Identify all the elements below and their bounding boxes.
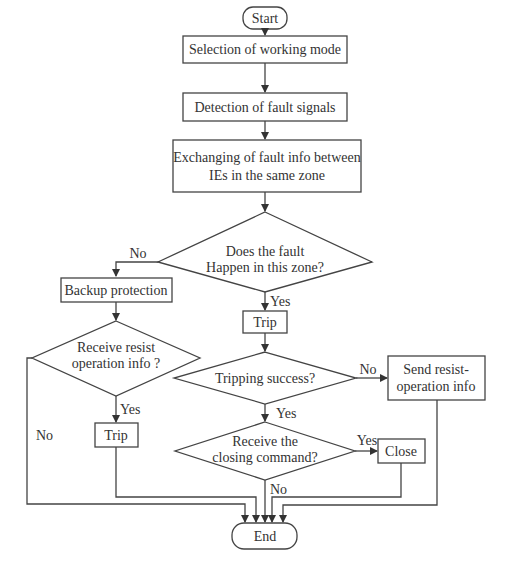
send-label-line2: operation info: [397, 379, 476, 394]
end-terminal: End: [232, 523, 297, 549]
closing-yes-label: Yes: [357, 433, 377, 448]
fault-zone-label-line1: Does the fault: [226, 244, 305, 259]
zone-no-label: No: [129, 246, 146, 261]
trip-main-step: Trip: [243, 311, 287, 333]
exchange-label-line1: Exchanging of fault info between: [173, 150, 360, 165]
exchange-label-line2: IEs in the same zone: [209, 168, 325, 183]
detection-label: Detection of fault signals: [194, 100, 335, 115]
fault-zone-label-line2: Happen in this zone?: [206, 260, 324, 275]
send-resist-step: Send resist- operation info: [388, 356, 485, 400]
send-label-line1: Send resist-: [403, 362, 469, 377]
close-step: Close: [378, 439, 425, 463]
closing-decision: Receive the closing command?: [175, 422, 355, 480]
trip-backup-step: Trip: [95, 423, 138, 447]
trip-backup-label: Trip: [104, 428, 128, 443]
arrow-zone-no: [116, 262, 158, 276]
exchange-step: Exchanging of fault info between IEs in …: [173, 140, 361, 192]
closing-no-label: No: [270, 482, 287, 497]
backup-protection-step: Backup protection: [61, 278, 172, 302]
zone-yes-label: Yes: [270, 294, 290, 309]
tripping-success-decision: Tripping success?: [174, 352, 356, 404]
trip-success-label: Tripping success?: [215, 371, 315, 386]
resist-no-label: No: [36, 428, 53, 443]
close-label: Close: [385, 444, 417, 459]
backup-label: Backup protection: [64, 283, 167, 298]
resist-label-line1: Receive resist: [77, 340, 155, 355]
selection-label: Selection of working mode: [189, 42, 341, 57]
closing-label-line1: Receive the: [232, 434, 298, 449]
start-label: Start: [252, 11, 279, 26]
fault-zone-decision: Does the fault Happen in this zone?: [158, 212, 372, 292]
flowchart: Start Selection of working mode Detectio…: [0, 0, 512, 579]
closing-label-line2: closing command?: [212, 450, 317, 465]
trip-main-label: Trip: [253, 315, 277, 330]
success-no-label: No: [359, 362, 376, 377]
selection-step: Selection of working mode: [183, 36, 347, 63]
resist-decision: Receive resist operation info ?: [32, 321, 200, 396]
success-yes-label: Yes: [276, 406, 296, 421]
resist-label-line2: operation info ?: [72, 356, 161, 371]
end-label: End: [254, 529, 277, 544]
detection-step: Detection of fault signals: [183, 93, 347, 121]
resist-yes-label: Yes: [120, 402, 140, 417]
start-terminal: Start: [243, 7, 287, 29]
